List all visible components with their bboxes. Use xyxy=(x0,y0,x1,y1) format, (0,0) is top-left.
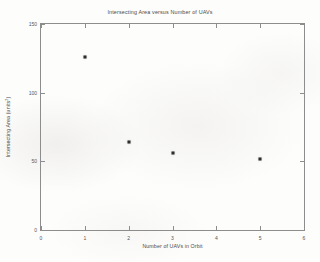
y-axis-tick-mark xyxy=(41,230,45,231)
y-axis-tick-mark xyxy=(300,93,304,94)
data-point-marker xyxy=(259,157,262,160)
x-axis-tick-label: 2 xyxy=(127,235,130,241)
x-axis-tick-label: 4 xyxy=(215,235,218,241)
x-axis-tick-mark xyxy=(129,24,130,28)
y-axis-tick-label: 150 xyxy=(29,21,37,27)
x-axis-tick-mark xyxy=(260,226,261,230)
data-point-marker xyxy=(127,141,130,144)
x-axis-tick-mark xyxy=(173,24,174,28)
y-axis-tick-label: 50 xyxy=(31,158,37,164)
y-axis-tick-label: 0 xyxy=(34,227,37,233)
x-axis-tick-mark xyxy=(260,24,261,28)
x-axis-tick-mark xyxy=(173,226,174,230)
x-axis-tick-label: 5 xyxy=(259,235,262,241)
x-axis-tick-mark xyxy=(85,226,86,230)
x-axis-tick-mark xyxy=(304,24,305,28)
y-axis-tick-mark xyxy=(300,230,304,231)
figure-canvas: Intersecting Area versus Number of UAVs … xyxy=(0,0,320,262)
y-axis-tick-mark xyxy=(300,161,304,162)
chart-title: Intersecting Area versus Number of UAVs xyxy=(0,9,320,15)
y-axis-tick-mark xyxy=(41,93,45,94)
data-point-marker xyxy=(171,152,174,155)
x-axis-tick-label: 0 xyxy=(40,235,43,241)
y-axis-label: Intersecting Area (units2) xyxy=(5,97,12,158)
x-axis-tick-label: 1 xyxy=(83,235,86,241)
plot-axes-box: 0123456050100150 xyxy=(40,23,305,231)
y-axis-tick-mark xyxy=(41,24,45,25)
x-axis-tick-mark xyxy=(304,226,305,230)
x-axis-label: Number of UAVs in Orbit xyxy=(40,243,305,249)
x-axis-tick-mark xyxy=(129,226,130,230)
x-axis-tick-mark xyxy=(85,24,86,28)
y-axis-label-exponent: 2 xyxy=(5,99,9,101)
x-axis-tick-mark xyxy=(216,24,217,28)
x-axis-tick-label: 6 xyxy=(303,235,306,241)
y-axis-label-text: Intersecting Area (units xyxy=(5,101,11,158)
y-axis-label-suffix: ) xyxy=(5,97,11,99)
y-axis-tick-mark xyxy=(41,161,45,162)
y-axis-tick-mark xyxy=(300,24,304,25)
x-axis-tick-label: 3 xyxy=(171,235,174,241)
data-point-marker xyxy=(83,55,86,58)
y-axis-tick-label: 100 xyxy=(29,90,37,96)
x-axis-tick-mark xyxy=(216,226,217,230)
